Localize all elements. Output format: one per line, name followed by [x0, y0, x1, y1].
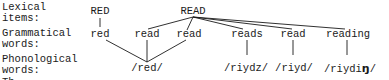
- grammatical-word-read-1: read: [134, 29, 159, 40]
- phonological-word-riyd: /riyd/: [275, 63, 313, 74]
- grammatical-word-reading: reading: [326, 29, 370, 40]
- grammatical-word-red: red: [91, 29, 110, 40]
- line-read2-phon: [147, 40, 186, 62]
- phon-suffix: /: [370, 63, 376, 75]
- engma-glyph: ŋ: [362, 62, 370, 75]
- lexical-item-RED: RED: [91, 6, 110, 17]
- grammatical-word-read-2: read: [176, 29, 201, 40]
- phon-prefix: /riydi: [324, 63, 362, 75]
- phonological-word-red: /red/: [131, 63, 163, 74]
- lexical-item-READ: READ: [180, 6, 205, 17]
- grammatical-word-read-3: read: [280, 29, 305, 40]
- phonological-word-riydz: /riydz/: [224, 63, 268, 74]
- line-red-phon: [106, 40, 147, 62]
- grammatical-word-reads: reads: [231, 29, 263, 40]
- phonological-word-riydin: /riydiŋ/: [324, 63, 376, 75]
- line-READ-reading: [193, 17, 345, 29]
